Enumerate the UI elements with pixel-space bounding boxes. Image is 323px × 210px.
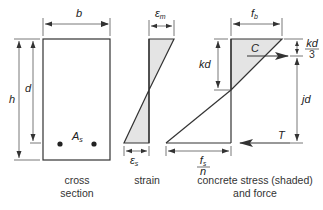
stress-diagram: fb kd C kd 3 jd T fs [166, 7, 319, 199]
depth-label: d [25, 82, 32, 94]
top-strain-label: εm [155, 7, 166, 20]
jd-label: jd [300, 93, 311, 105]
bottom-strain-label: εs [130, 154, 139, 167]
kd-label: kd [199, 58, 212, 70]
height-label: h [9, 93, 15, 105]
strain-diagram: εm εs strain [124, 7, 174, 186]
beam-diagram: b h d As cross section εm [0, 0, 323, 210]
top-stress-label: fb [251, 7, 258, 20]
cross-section: b h d As cross section [9, 7, 110, 199]
strain-tension-area [124, 90, 149, 143]
stress-caption-2: and force [233, 187, 277, 199]
strain-compression-area [149, 39, 174, 90]
steel-area-label: As [71, 130, 83, 143]
stress-caption-1: concrete stress (shaded) [197, 174, 313, 186]
rebar-left [57, 141, 62, 146]
strain-caption: strain [134, 174, 160, 186]
kd3-denominator: 3 [309, 48, 315, 60]
compression-label: C [251, 42, 259, 54]
cross-section-caption-1: cross [64, 174, 89, 186]
rebar-right [91, 141, 96, 146]
tension-label: T [278, 129, 286, 141]
width-label: b [76, 7, 82, 19]
cross-section-caption-2: section [60, 187, 93, 199]
